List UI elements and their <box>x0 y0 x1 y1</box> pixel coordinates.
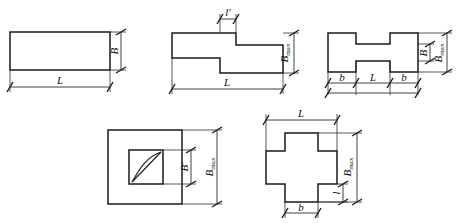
cross-label-b: b <box>298 201 304 213</box>
ibeam-label-b: B <box>417 49 429 56</box>
rect-label-l: L <box>56 74 63 86</box>
sq-label-bmax: Bmax <box>203 157 217 176</box>
rectangle-outline <box>10 32 110 70</box>
sq-label-b-prime: B' <box>178 162 190 172</box>
ibeam-label-bmax: Bmax <box>432 43 446 62</box>
cross-label-l: L <box>297 107 304 119</box>
shape-rectangle: B L <box>7 29 126 92</box>
i-beam-outline <box>328 33 418 72</box>
diagram-canvas: B L l' Bmax <box>0 0 462 223</box>
shape-stepped-z: l' Bmax L <box>169 6 299 94</box>
ibeam-label-b-right: b <box>401 71 407 83</box>
rect-label-b: B <box>108 47 120 54</box>
z-label-l: L <box>223 76 230 88</box>
shape-cross: L Bmax l b <box>263 107 362 218</box>
z-label-step: l' <box>225 6 231 18</box>
stepped-z-outline <box>172 33 283 73</box>
cross-label-arm: l <box>330 191 342 194</box>
cross-label-bmax: Bmax <box>341 157 355 176</box>
shape-i-beam: B Bmax b L b <box>325 30 452 98</box>
ibeam-label-l: L <box>369 71 376 83</box>
foundation-shapes-diagram: B L l' Bmax <box>0 0 462 223</box>
cross-outline <box>266 133 337 202</box>
shape-hollow-square: B' Bmax <box>108 127 222 207</box>
ibeam-label-b-left: b <box>339 71 345 83</box>
